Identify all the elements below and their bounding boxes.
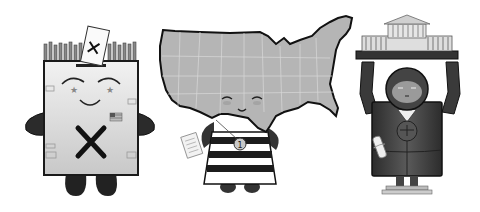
illustration-scene: ★ ★ [0,0,480,212]
usa-map-character: 1 [160,16,352,193]
ballot-box-body [44,61,138,175]
ballot-paper [80,26,109,66]
star-eye-icon: ★ [106,85,114,95]
clipboard-document-icon [181,132,203,158]
ballot-box-right-foot [96,174,117,196]
medal-number: 1 [237,141,242,150]
us-flag-icon [110,113,122,121]
courthouse-icon [356,15,458,59]
judge-face [392,81,422,103]
star-eye-icon: ★ [70,85,78,95]
usa-map-shape [160,16,352,132]
supreme-court-character [356,15,460,194]
judge-right-arm [442,62,460,114]
ballot-box-character: ★ ★ [25,26,154,196]
ballot-box-left-foot [65,174,86,196]
